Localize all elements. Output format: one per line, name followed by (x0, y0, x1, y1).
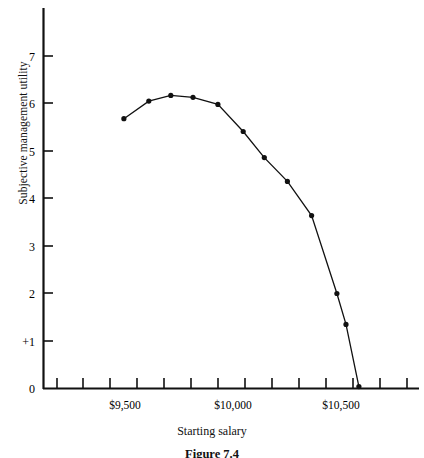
data-point (356, 384, 361, 389)
data-point (262, 155, 267, 160)
y-tick-label-0: 0 (29, 382, 35, 396)
y-axis-title: Subjective management utility (13, 38, 29, 228)
data-point (309, 213, 314, 218)
x-tick-label-10500: $10,500 (322, 399, 360, 412)
data-point (241, 129, 246, 134)
data-point (146, 99, 151, 104)
y-axis-title-text: Subjective management utility (17, 61, 29, 204)
y-tick-label-plus1: +1 (22, 335, 35, 349)
data-point (343, 322, 348, 327)
x-tick-label-9500: $9,500 (109, 399, 141, 412)
figure-caption: Figure 7.4 (0, 447, 424, 458)
data-point (285, 179, 290, 184)
data-point (190, 95, 195, 100)
x-tick-label-10000: $10,000 (214, 399, 252, 412)
x-axis-ticks (57, 378, 407, 388)
data-point-markers (121, 93, 361, 389)
y-tick-label-7: 7 (29, 50, 35, 64)
x-axis-title: Starting salary (0, 424, 424, 439)
y-tick-label-3: 3 (29, 240, 35, 254)
y-tick-label-6: 6 (29, 97, 35, 111)
y-tick-label-5: 5 (29, 145, 35, 159)
y-tick-label-2: 2 (29, 287, 35, 301)
data-point (215, 102, 220, 107)
data-point (121, 116, 126, 121)
y-tick-label-4: 4 (29, 192, 35, 206)
chart-plot: 7 6 5 4 3 2 +1 0 $9,500 $10,000 $10,500 (0, 0, 424, 458)
figure-container: 7 6 5 4 3 2 +1 0 $9,500 $10,000 $10,500 … (0, 0, 424, 458)
data-point (168, 93, 173, 98)
data-series-line (124, 95, 359, 386)
data-point (334, 291, 339, 296)
